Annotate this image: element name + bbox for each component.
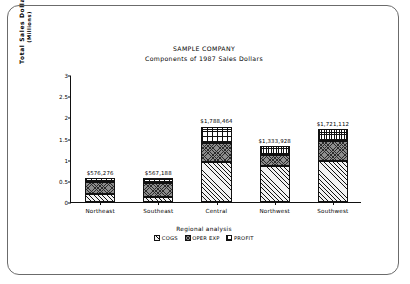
- bar-segment-profit: [201, 127, 231, 143]
- x-axis-label-northeast: Northeast: [85, 208, 114, 214]
- bar-central[interactable]: [201, 126, 231, 202]
- bar-southeast[interactable]: [143, 178, 173, 202]
- y-axis-tick-mark: [68, 97, 71, 98]
- y-axis-tick-label: 0.5: [59, 179, 68, 185]
- chart-frame: SAMPLE COMPANY Components of 1987 Sales …: [7, 5, 399, 275]
- bar-value-label: $576,276: [87, 170, 114, 176]
- legend-item-oper-exp[interactable]: OPER EXP: [185, 235, 220, 241]
- x-axis-label-southeast: Southeast: [143, 208, 173, 214]
- x-axis-label-central: Central: [206, 208, 228, 214]
- y-axis-tick-label: 0: [64, 200, 68, 206]
- bar-northwest[interactable]: [260, 146, 290, 202]
- y-axis-tick-mark: [68, 160, 71, 161]
- bar-segment-profit: [260, 146, 290, 156]
- y-axis-tick-label: 1.5: [59, 137, 68, 143]
- y-axis-title-line1: Total Sales Dollars: [18, 0, 25, 64]
- chart-legend: Regional analysis COGSOPER EXPPROFIT: [22, 226, 386, 241]
- bar-segment-oper-exp: [260, 155, 290, 166]
- plot-area: 00.511.522.53$576,276Northeast$567,188So…: [70, 76, 361, 203]
- bar-segment-cogs: [318, 161, 348, 202]
- legend-title: Regional analysis: [22, 226, 386, 232]
- legend-swatch-icon: [185, 235, 191, 241]
- bar-segment-oper-exp: [201, 143, 231, 162]
- legend-items: COGSOPER EXPPROFIT: [22, 235, 386, 241]
- legend-label: OPER EXP: [192, 235, 219, 241]
- x-axis-tick-mark: [275, 202, 276, 205]
- legend-swatch-icon: [154, 235, 160, 241]
- y-axis-tick-mark: [68, 203, 71, 204]
- bar-segment-oper-exp: [85, 182, 115, 194]
- y-axis-title: Total Sales Dollars (Millions): [18, 0, 33, 87]
- x-axis-tick-mark: [217, 202, 218, 205]
- bar-value-label: $1,721,112: [317, 121, 349, 127]
- y-axis-tick-mark: [68, 181, 71, 182]
- x-axis-label-southwest: Southwest: [317, 208, 348, 214]
- bar-northeast[interactable]: [85, 178, 115, 202]
- bar-segment-oper-exp: [143, 183, 173, 197]
- bar-segment-oper-exp: [318, 141, 348, 160]
- bar-segment-profit: [85, 178, 115, 181]
- chart-subtitle: Components of 1987 Sales Dollars: [22, 56, 386, 62]
- bar-segment-cogs: [201, 162, 231, 202]
- bar-segment-cogs: [85, 194, 115, 202]
- bar-value-label: $567,188: [145, 170, 172, 176]
- y-axis-tick-mark: [68, 118, 71, 119]
- bar-southwest[interactable]: [318, 129, 348, 202]
- y-axis-tick-label: 2.5: [59, 94, 68, 100]
- chart-panel: SAMPLE COMPANY Components of 1987 Sales …: [22, 19, 386, 263]
- x-axis-label-northwest: Northwest: [259, 208, 290, 214]
- legend-label: COGS: [162, 235, 178, 241]
- bar-value-label: $1,333,928: [259, 138, 291, 144]
- bar-segment-profit: [318, 129, 348, 141]
- x-axis-tick-mark: [100, 202, 101, 205]
- bar-segment-cogs: [260, 166, 290, 202]
- chart-title: SAMPLE COMPANY: [22, 46, 386, 52]
- y-axis-tick-mark: [68, 76, 71, 77]
- x-axis-tick-mark: [158, 202, 159, 205]
- y-axis-title-line2: (Millions): [26, 11, 32, 42]
- legend-swatch-icon: [226, 235, 232, 241]
- y-axis-tick-label: 3: [64, 73, 68, 79]
- x-axis-tick-mark: [333, 202, 334, 205]
- bar-segment-profit: [143, 178, 173, 182]
- legend-item-profit[interactable]: PROFIT: [226, 235, 253, 241]
- legend-item-cogs[interactable]: COGS: [154, 235, 177, 241]
- y-axis-tick-mark: [68, 139, 71, 140]
- y-axis-tick-label: 1: [64, 158, 68, 164]
- y-axis-tick-label: 2: [64, 115, 68, 121]
- bar-value-label: $1,788,464: [200, 118, 232, 124]
- legend-label: PROFIT: [234, 235, 254, 241]
